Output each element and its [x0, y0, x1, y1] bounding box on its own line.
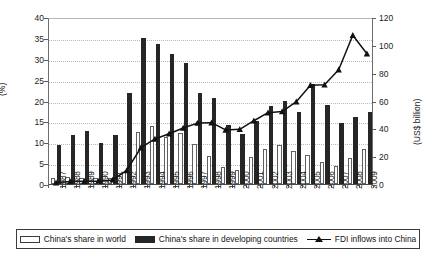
y-tick-mark-left	[44, 60, 48, 61]
y-tick-label-left: 0	[18, 181, 44, 189]
x-tick-label-2001: 2001	[256, 171, 265, 189]
y-tick-mark-left	[44, 39, 48, 40]
x-tick-label-1995: 1995	[172, 171, 181, 189]
x-tick-label-1989: 1989	[87, 171, 96, 189]
line-series-fdi	[49, 19, 374, 186]
x-tick-label-2006: 2006	[327, 171, 336, 189]
x-tick-label-1997: 1997	[200, 171, 209, 189]
x-tick-label-1991: 1991	[115, 171, 124, 189]
y-axis-left: 4035302520151050	[14, 0, 44, 259]
x-tick-label-1987: 1987	[59, 171, 68, 189]
fdi-marker-1993	[138, 145, 144, 151]
fdi-marker-2001	[251, 118, 257, 124]
x-tick-label-1994: 1994	[158, 171, 167, 189]
x-tick-label-2003: 2003	[285, 171, 294, 189]
legend-label-fdi: FDI inflows into China	[335, 234, 416, 244]
x-tick-label-2004: 2004	[299, 171, 308, 189]
chart-figure: 4035302520151050 (%) 120100806040200 (US…	[0, 0, 436, 259]
y-tick-mark-right	[372, 18, 376, 19]
y-tick-mark-left	[44, 164, 48, 165]
x-tick-label-1993: 1993	[143, 171, 152, 189]
x-tick-label-1990: 1990	[101, 171, 110, 189]
y-tick-mark-left	[44, 102, 48, 103]
y-tick-label-left: 5	[18, 160, 44, 168]
fdi-marker-2008	[350, 32, 356, 38]
y-tick-label-left: 20	[18, 98, 44, 106]
y-tick-label-left: 10	[18, 139, 44, 147]
y-tick-label-left: 25	[18, 77, 44, 85]
fdi-line-path	[56, 35, 367, 183]
x-tick-label-2007: 2007	[341, 171, 350, 189]
x-tick-label-1999: 1999	[228, 171, 237, 189]
x-tick-label-2008: 2008	[355, 171, 364, 189]
legend-item-fdi: FDI inflows into China	[307, 234, 416, 244]
legend-item-world: China's share in world	[20, 234, 126, 244]
y-tick-label-left: 30	[18, 56, 44, 64]
x-tick-label-1988: 1988	[73, 171, 82, 189]
y-tick-label-left: 15	[18, 118, 44, 126]
x-axis: 1987198819891990199119921993199419951996…	[48, 185, 373, 225]
y-tick-mark-right	[372, 102, 376, 103]
y-tick-mark-left	[44, 143, 48, 144]
y-tick-label-right: 0	[379, 181, 409, 189]
y-tick-mark-left	[44, 122, 48, 123]
x-tick-label-2009: 2009	[370, 171, 379, 189]
filled-square-swatch-icon	[135, 236, 155, 243]
y-tick-mark-left	[44, 81, 48, 82]
x-tick-label-2002: 2002	[271, 171, 280, 189]
legend-item-developing: China's share in developing countries	[135, 234, 298, 244]
y-tick-label-left: 40	[18, 14, 44, 22]
y-axis-right: 120100806040200	[374, 0, 414, 259]
y-tick-mark-right	[372, 46, 376, 47]
legend-label-developing: China's share in developing countries	[159, 234, 298, 244]
fdi-marker-2007	[335, 67, 341, 73]
x-tick-mark	[48, 185, 49, 188]
y-tick-label-right: 80	[379, 70, 409, 78]
y-axis-left-label: (%)	[0, 83, 7, 96]
y-tick-label-right: 100	[379, 42, 409, 50]
y-tick-mark-right	[372, 129, 376, 130]
y-axis-right-label: (US$ billion)	[412, 99, 422, 145]
y-tick-mark-left	[44, 185, 48, 186]
y-tick-label-right: 40	[379, 125, 409, 133]
x-tick-label-1992: 1992	[129, 171, 138, 189]
y-tick-mark-right	[372, 157, 376, 158]
y-tick-label-right: 20	[379, 153, 409, 161]
y-tick-label-right: 60	[379, 98, 409, 106]
x-tick-label-1996: 1996	[186, 171, 195, 189]
plot-area	[48, 18, 373, 185]
y-tick-mark-right	[372, 74, 376, 75]
line-marker-swatch-icon	[307, 235, 331, 244]
y-tick-label-right: 120	[379, 14, 409, 22]
y-tick-mark-left	[44, 18, 48, 19]
x-tick-label-2000: 2000	[242, 171, 251, 189]
x-tick-label-1998: 1998	[214, 171, 223, 189]
y-tick-mark-right	[372, 185, 376, 186]
open-square-swatch-icon	[20, 236, 40, 243]
y-tick-label-left: 35	[18, 35, 44, 43]
x-tick-label-2005: 2005	[313, 171, 322, 189]
chart-legend: China's share in world China's share in …	[16, 229, 420, 249]
legend-label-world: China's share in world	[44, 234, 126, 244]
